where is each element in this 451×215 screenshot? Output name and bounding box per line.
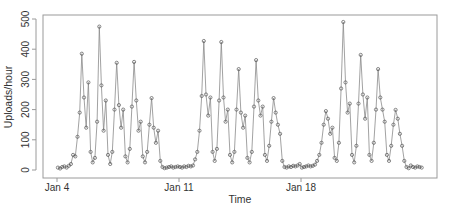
uploads-time-series-chart: 0100200300400500 Jan 4Jan 11Jan 18 Uploa… bbox=[0, 0, 451, 215]
x-axis: Jan 4Jan 11Jan 18 bbox=[45, 178, 317, 193]
y-tick-label: 500 bbox=[20, 10, 31, 27]
y-tick-label: 200 bbox=[20, 101, 31, 118]
y-tick-label: 400 bbox=[20, 40, 31, 57]
x-tick-label: Jan 18 bbox=[286, 182, 316, 193]
series-line bbox=[58, 22, 422, 169]
x-tick-label: Jan 4 bbox=[45, 182, 70, 193]
y-tick-label: 300 bbox=[20, 71, 31, 88]
y-tick-label: 100 bbox=[20, 131, 31, 148]
x-axis-title: Time bbox=[229, 193, 252, 205]
y-tick-label: 0 bbox=[20, 167, 31, 173]
y-axis-title: Uploads/hour bbox=[2, 65, 14, 128]
x-tick-label: Jan 11 bbox=[164, 182, 194, 193]
y-axis: 0100200300400500 bbox=[20, 10, 36, 173]
